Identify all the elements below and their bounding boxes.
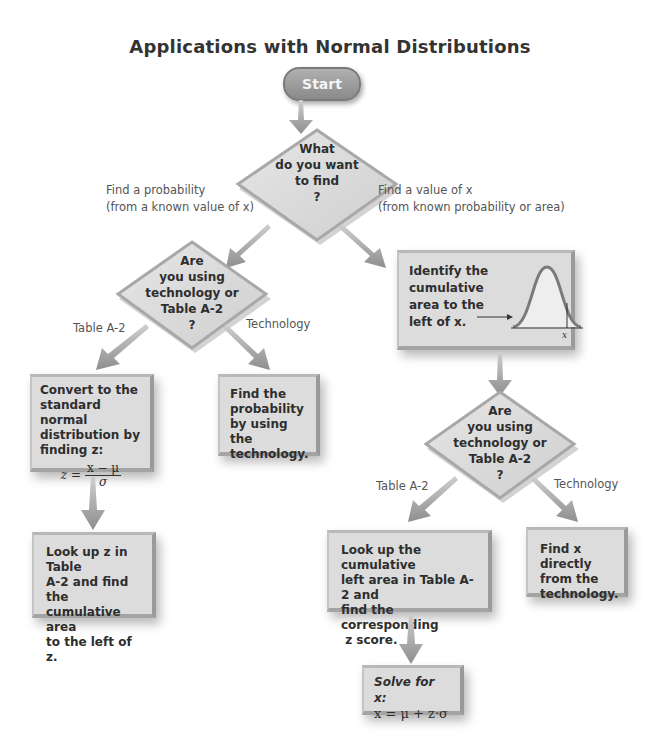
decision-line: Table A-2	[420, 451, 580, 467]
arrow-to-find-prob-tech	[222, 322, 274, 374]
box-line: Find the	[230, 387, 306, 402]
box-line: to the left of z.	[46, 635, 140, 665]
box-line: standard normal	[40, 398, 142, 428]
box-find-x-technology: Find x directly from the technology.	[526, 527, 628, 597]
decision-line: Are	[420, 403, 580, 419]
box-line: by using the	[230, 417, 306, 447]
box-line: distribution by	[40, 428, 142, 443]
pointer-arrow-icon	[477, 313, 513, 321]
decision-line: you using	[112, 269, 272, 285]
arrow-to-convert-box	[92, 322, 150, 374]
decision-line: you using	[420, 419, 580, 435]
box-line: finding z:	[40, 443, 142, 458]
box-lookup-cumulative-left-area: Look up the cumulative left area in Tabl…	[327, 530, 492, 612]
decision-line: do you want	[232, 157, 402, 173]
box-line: technology.	[540, 587, 612, 602]
branch-label-find-probability: Find a probability (from a known value o…	[106, 182, 254, 216]
branch-label-find-value: Find a value of x (from known probabilit…	[378, 182, 565, 216]
decision-line: technology or	[420, 435, 580, 451]
box-line: technology.	[230, 447, 306, 462]
box-line: Look up the cumulative	[341, 543, 476, 573]
arrow-convert-to-lookup	[80, 476, 106, 530]
box-line: cumulative area	[46, 605, 140, 635]
start-node: Start	[283, 67, 361, 101]
box-line: from the	[540, 572, 612, 587]
normal-curve-icon	[511, 263, 583, 345]
decision-line: to find	[232, 173, 402, 189]
box-lookup-z-table: Look up z in Table A-2 and find the cumu…	[32, 532, 156, 618]
decision-line: ?	[232, 189, 402, 205]
box-convert-standard-normal: Convert to the standard normal distribut…	[30, 374, 154, 472]
box-line: Look up z in Table	[46, 545, 140, 575]
arrow-lookup-to-solve	[398, 614, 424, 664]
start-label: Start	[302, 76, 342, 92]
box-line: probability	[230, 402, 306, 417]
box-line: left area in Table A-2 and	[341, 573, 476, 603]
curve-x-label: x	[562, 327, 567, 344]
arrow-to-lookup-cumulative	[405, 474, 459, 526]
arrow-to-identify-box	[338, 222, 390, 272]
decision-line: Table A-2	[112, 301, 272, 317]
x-formula: x = μ + z·σ	[374, 706, 450, 722]
box-line: Solve for x:	[374, 674, 450, 706]
decision-line: What	[232, 141, 402, 157]
arrow-to-find-x-tech	[530, 474, 582, 526]
diagram-title: Applications with Normal Distributions	[0, 36, 660, 57]
box-line: Convert to the	[40, 383, 142, 398]
box-line: Find x directly	[540, 542, 612, 572]
decision-line: Are	[112, 253, 272, 269]
box-identify-cumulative-area: Identify the cumulative area to the left…	[397, 250, 575, 350]
box-line: A-2 and find the	[46, 575, 140, 605]
box-solve-for-x: Solve for x: x = μ + z·σ	[362, 665, 464, 715]
box-find-probability-technology: Find the probability by using the techno…	[218, 374, 320, 456]
decision-line: technology or	[112, 285, 272, 301]
